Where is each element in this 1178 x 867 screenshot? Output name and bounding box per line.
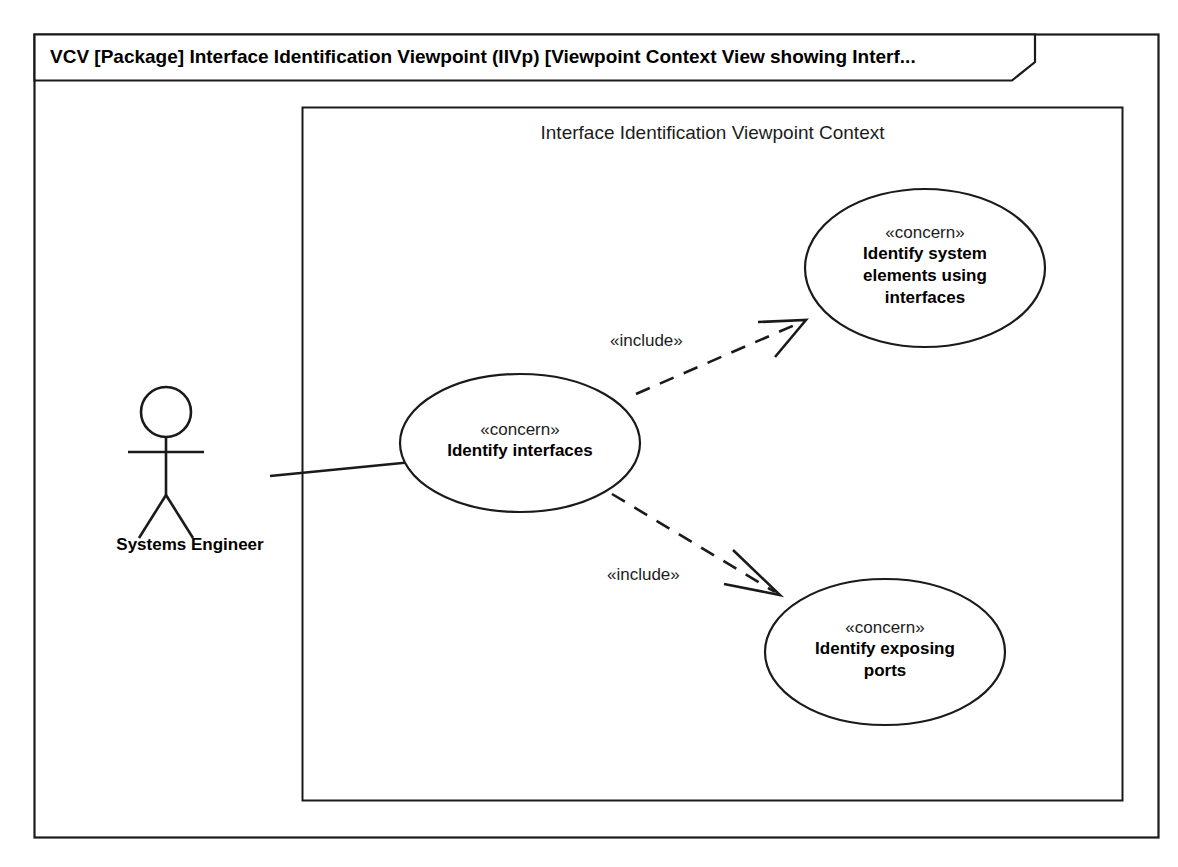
actor-head-icon	[141, 387, 191, 437]
diagram-canvas: VCV [Package] Interface Identification V…	[0, 0, 1178, 867]
context-boundary-title: Interface Identification Viewpoint Conte…	[302, 122, 1123, 144]
actor-label-systems-engineer: Systems Engineer	[85, 535, 295, 555]
include-label-top: «include»	[610, 331, 683, 351]
use-case-ellipse-identify-system-elements[interactable]	[805, 189, 1045, 347]
use-case-ellipse-identify-exposing-ports[interactable]	[765, 579, 1005, 725]
frame-title-label: VCV [Package] Interface Identification V…	[50, 42, 980, 72]
use-case-ellipse-identify-interfaces[interactable]	[400, 374, 640, 512]
include-label-bottom: «include»	[607, 565, 680, 585]
